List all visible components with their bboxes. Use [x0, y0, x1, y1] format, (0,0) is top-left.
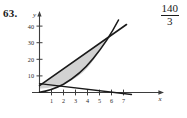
y-tick-label-30: 30 [28, 39, 34, 46]
x-tick-label-5: 5 [98, 97, 101, 104]
figure-container: 63. 140 3 10 20 [0, 0, 187, 118]
x-axis-label: x [157, 95, 162, 103]
y-tick-label-20: 20 [28, 56, 34, 63]
y-axis-arrow [37, 11, 41, 16]
x-tick-label-4: 4 [86, 97, 89, 104]
y-tick-label-40: 40 [28, 23, 34, 30]
y-tick-label-10: 10 [28, 72, 34, 79]
x-tick-label-3: 3 [74, 97, 77, 104]
x-tick-label-6: 6 [110, 97, 113, 104]
x-tick-label-7: 7 [122, 97, 125, 104]
x-tick-label-1: 1 [50, 97, 53, 104]
upper-line-series [40, 25, 127, 86]
coordinate-plot: 10 20 30 40 1 2 3 4 5 6 7 y x [0, 0, 187, 118]
y-axis-label: y [32, 11, 37, 19]
x-tick-label-2: 2 [62, 97, 65, 104]
